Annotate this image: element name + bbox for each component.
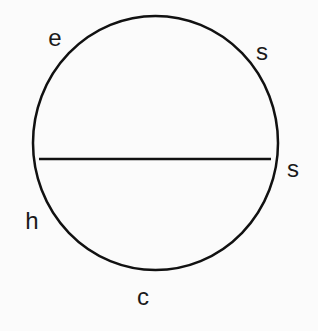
circle-outline bbox=[33, 16, 278, 270]
diagram-canvas: e s s h c bbox=[0, 0, 318, 331]
label-e: e bbox=[48, 26, 61, 50]
label-s-right: s bbox=[287, 157, 299, 181]
label-s-top: s bbox=[256, 40, 268, 64]
label-h: h bbox=[25, 209, 38, 233]
label-c: c bbox=[137, 285, 149, 309]
